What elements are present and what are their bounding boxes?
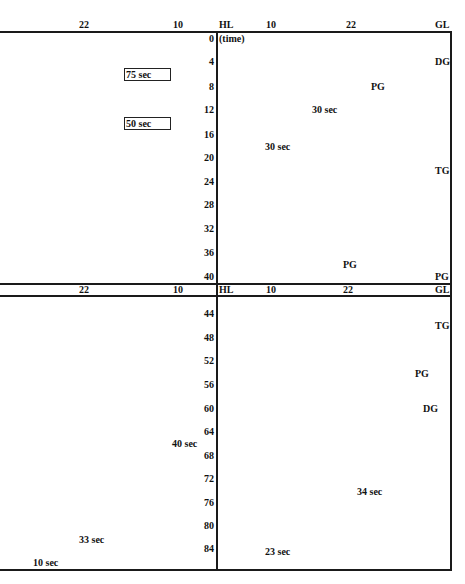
header-right-10: 10 xyxy=(266,284,276,295)
tick-0: 0 xyxy=(184,33,214,44)
tick-32: 32 xyxy=(184,223,214,234)
annotation-dg: DG xyxy=(423,403,438,414)
tick-40: 40 xyxy=(184,271,214,282)
tick-12: 12 xyxy=(184,104,214,115)
annotation-pg: PG xyxy=(415,368,429,379)
tick-48: 48 xyxy=(184,332,214,343)
header-right-22: 22 xyxy=(346,19,356,30)
annotation-23-sec: 23 sec xyxy=(265,546,290,557)
tick-20: 20 xyxy=(184,152,214,163)
annotation-40-sec: 40 sec xyxy=(172,438,197,449)
header-right-22: 22 xyxy=(343,284,353,295)
header-left-10: 10 xyxy=(173,19,183,30)
header-halfline: HL xyxy=(219,284,233,295)
tick-84: 84 xyxy=(184,543,214,554)
header-goalline: GL xyxy=(435,284,449,295)
tick-8: 8 xyxy=(184,81,214,92)
annotation-30-sec: 30 sec xyxy=(265,141,290,152)
halfline-axis xyxy=(216,31,218,571)
tick-68: 68 xyxy=(184,450,214,461)
header-goalline: GL xyxy=(435,19,449,30)
header-left-22: 22 xyxy=(79,284,89,295)
tick-16: 16 xyxy=(184,129,214,140)
bottom-border-line xyxy=(0,569,452,571)
tick-56: 56 xyxy=(184,379,214,390)
tick-36: 36 xyxy=(184,247,214,258)
tick-4: 4 xyxy=(184,56,214,67)
tick-44: 44 xyxy=(184,308,214,319)
time-axis-label: (time) xyxy=(219,33,245,44)
header-right-10: 10 xyxy=(266,19,276,30)
annotation-10-sec: 10 sec xyxy=(33,557,58,568)
annotation-tg: TG xyxy=(435,165,449,176)
annotation-pg: PG xyxy=(371,81,385,92)
annotation-30-sec: 30 sec xyxy=(312,104,337,115)
annotation-50-sec: 50 sec xyxy=(124,117,171,130)
header-left-22: 22 xyxy=(79,19,89,30)
annotation-pg: PG xyxy=(435,271,449,282)
annotation-33-sec: 33 sec xyxy=(79,534,104,545)
annotation-pg: PG xyxy=(343,259,357,270)
header-halfline: HL xyxy=(219,19,233,30)
annotation-34-sec: 34 sec xyxy=(357,486,382,497)
annotation-tg: TG xyxy=(435,320,449,331)
header-left-10: 10 xyxy=(173,284,183,295)
right-border-line xyxy=(450,31,452,571)
tick-52: 52 xyxy=(184,355,214,366)
tick-72: 72 xyxy=(184,473,214,484)
annotation-dg: DG xyxy=(435,56,450,67)
tick-76: 76 xyxy=(184,497,214,508)
tick-60: 60 xyxy=(184,403,214,414)
tick-80: 80 xyxy=(184,520,214,531)
tick-24: 24 xyxy=(184,176,214,187)
annotation-75-sec: 75 sec xyxy=(124,68,171,81)
mid-divider-lower xyxy=(0,295,452,297)
tick-64: 64 xyxy=(184,426,214,437)
tick-28: 28 xyxy=(184,199,214,210)
